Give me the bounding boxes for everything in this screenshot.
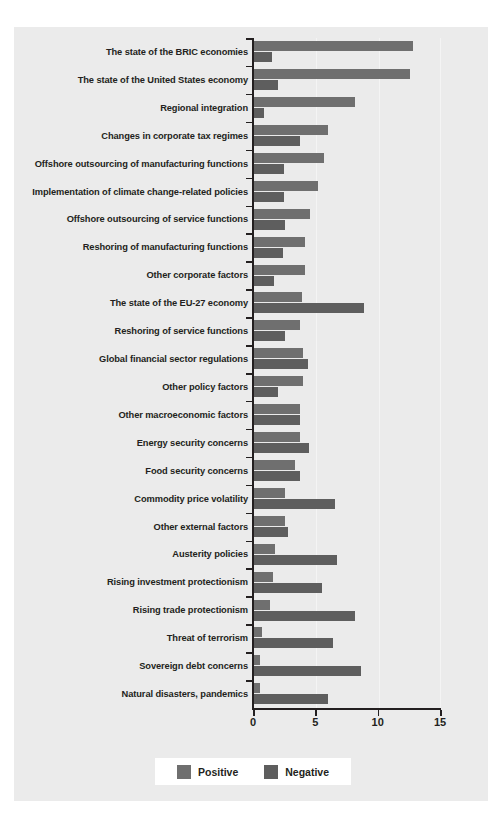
chart-legend: Positive Negative [155,758,351,785]
bar-positive [253,125,328,135]
bar-negative [253,555,337,565]
y-axis-tick [246,652,253,654]
y-axis-tick [246,568,253,570]
bar-positive [253,488,285,498]
x-axis-tick-label: 15 [434,716,446,728]
bar-positive [253,237,305,247]
bar-positive [253,655,260,665]
category-label: Global financial sector regulations [99,354,248,364]
bar-positive [253,460,295,470]
bar-negative [253,359,308,369]
y-axis-tick [246,680,253,682]
category-label: Reshoring of manufacturing functions [83,242,248,252]
bar-negative [253,52,272,62]
y-axis-tick [246,38,253,40]
category-label: Food security concerns [145,466,248,476]
category-label: Rising investment protectionism [107,577,248,587]
bar-positive [253,320,300,330]
bar-positive [253,348,303,358]
bar-negative [253,611,355,621]
bar-negative [253,499,335,509]
category-label: Other policy factors [162,382,248,392]
bar-negative [253,276,274,286]
bar-negative [253,164,284,174]
bar-negative [253,136,300,146]
bar-positive [253,572,273,582]
bar-negative [253,331,285,341]
y-axis-tick [246,373,253,375]
y-axis-tick [246,513,253,515]
y-axis-tick [246,624,253,626]
category-label: Commodity price volatility [134,494,248,504]
legend-label-positive: Positive [198,766,238,778]
bar-positive [253,404,300,414]
y-axis-tick [246,122,253,124]
bar-negative [253,415,300,425]
y-axis-tick [246,596,253,598]
legend-label-negative: Negative [285,766,329,778]
category-label: Other macroeconomic factors [118,410,248,420]
bar-negative [253,694,328,704]
bar-positive [253,209,310,219]
bar-positive [253,683,260,693]
y-axis-tick [246,66,253,68]
y-axis-tick [246,429,253,431]
y-axis-tick [246,345,253,347]
category-label: The state of the United States economy [78,75,248,85]
y-axis-tick [246,94,253,96]
x-axis-line [253,708,441,710]
category-label: Other external factors [154,522,248,532]
x-axis-tick-label: 0 [250,716,256,728]
bar-negative [253,666,361,676]
legend-item-negative: Negative [264,765,329,779]
category-label: Sovereign debt concerns [139,661,248,671]
category-label: Changes in corporate tax regimes [101,131,248,141]
bar-positive [253,265,305,275]
category-label: Implementation of climate change-related… [32,187,248,197]
bar-positive [253,41,413,51]
bar-positive [253,376,303,386]
legend-item-positive: Positive [177,765,238,779]
bar-negative [253,248,283,258]
bar-negative [253,80,278,90]
y-axis-tick [246,317,253,319]
legend-swatch-positive [177,765,191,779]
category-label: Other corporate factors [146,270,248,280]
bar-positive [253,292,302,302]
x-axis-tick-label: 5 [312,716,318,728]
bar-negative [253,303,364,313]
bar-positive [253,181,318,191]
bar-negative [253,387,278,397]
y-axis-tick [246,233,253,235]
category-label: Offshore outsourcing of manufacturing fu… [35,159,248,169]
category-label: Regional integration [160,103,248,113]
category-label: Offshore outsourcing of service function… [67,214,248,224]
x-axis-tick-label: 10 [372,716,384,728]
category-label: The state of the EU-27 economy [110,298,248,308]
bar-positive [253,600,270,610]
y-axis-tick [246,541,253,543]
y-axis-tick [246,401,253,403]
legend-swatch-negative [264,765,278,779]
y-axis-tick [246,206,253,208]
y-axis-tick [246,261,253,263]
y-axis-tick [246,457,253,459]
bar-negative [253,108,264,118]
y-axis-tick [246,178,253,180]
y-axis-tick [246,150,253,152]
bar-positive [253,432,300,442]
bar-positive [253,69,410,79]
category-label: The state of the BRIC economies [106,47,248,57]
y-axis-tick [246,289,253,291]
bar-positive [253,516,285,526]
y-axis-tick [246,485,253,487]
category-label: Austerity policies [172,549,248,559]
category-label: Energy security concerns [137,438,248,448]
category-label: Reshoring of service functions [115,326,248,336]
bar-negative [253,583,322,593]
chart-figure: The state of the BRIC economiesThe state… [0,0,504,828]
bar-negative [253,527,288,537]
bar-negative [253,638,333,648]
bar-positive [253,627,262,637]
bar-negative [253,192,284,202]
